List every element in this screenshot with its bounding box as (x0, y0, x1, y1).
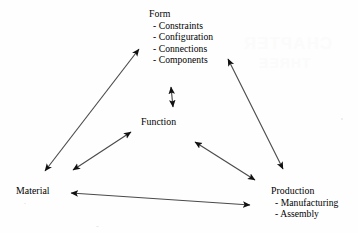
node-production-item-manufacturing: - Manufacturing (271, 197, 338, 209)
node-material-title: Material (16, 185, 50, 197)
diagram-canvas: CHAPTER THREE Form - Constraints - Confi… (0, 0, 358, 233)
node-material: Material (16, 185, 50, 197)
scan-speck (24, 203, 26, 204)
scan-speck (96, 226, 99, 227)
node-form-item-components: - Components (149, 54, 213, 66)
edge-form-production (228, 59, 283, 169)
node-production: Production - Manufacturing - Assembly (271, 185, 338, 220)
node-form-item-constraints: - Constraints (149, 20, 213, 32)
node-form: Form - Constraints - Configuration - Con… (149, 8, 213, 66)
node-function: Function (141, 116, 176, 128)
node-production-item-assembly: - Assembly (271, 208, 338, 220)
node-form-item-connections: - Connections (149, 43, 213, 55)
node-form-title: Form (149, 8, 213, 20)
scan-speck (341, 118, 343, 120)
edge-form-function (171, 87, 173, 107)
edge-material-function (73, 132, 131, 170)
node-function-title: Function (141, 116, 176, 128)
edge-material-production (71, 193, 250, 205)
edge-function-production (195, 142, 255, 180)
node-form-item-configuration: - Configuration (149, 31, 213, 43)
edge-material-form (45, 49, 139, 171)
node-production-title: Production (271, 185, 338, 197)
